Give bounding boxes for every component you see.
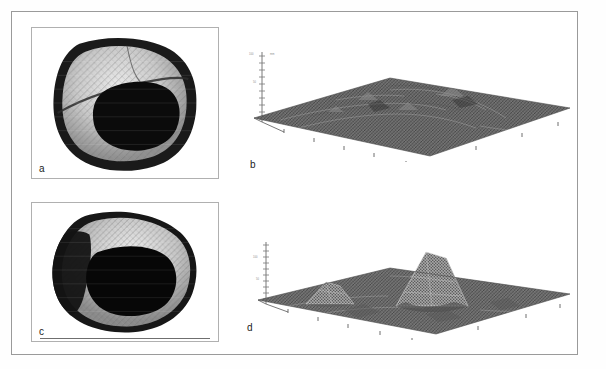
panel-d-mesh-surface [258, 252, 570, 334]
panel-label-b: b [250, 160, 256, 170]
panel-c-micrograph [32, 203, 218, 341]
panel-d-surface-plot: 100 50 [240, 228, 570, 340]
scale-bar [40, 338, 210, 339]
panel-label-d: d [247, 323, 253, 333]
svg-text:100: 100 [253, 255, 258, 259]
panel-a-micrograph [32, 28, 218, 178]
figure-root: a [0, 0, 606, 369]
panel-c-image-box: c [31, 202, 219, 342]
panel-b-surface-plot: 100 mm 50 [240, 34, 570, 162]
panel-label-a: a [39, 164, 45, 174]
panel-label-c: c [39, 327, 44, 337]
panel-a-image-box: a [31, 27, 219, 179]
svg-text:100: 100 [249, 52, 254, 56]
svg-text:50: 50 [256, 277, 259, 281]
svg-text:mm: mm [270, 53, 274, 56]
panel-d-z-axis: 100 50 [253, 242, 269, 304]
panel-b-mesh-surface [254, 78, 570, 156]
svg-text:50: 50 [253, 80, 256, 84]
panel-b-z-axis: 100 mm 50 [249, 52, 274, 122]
